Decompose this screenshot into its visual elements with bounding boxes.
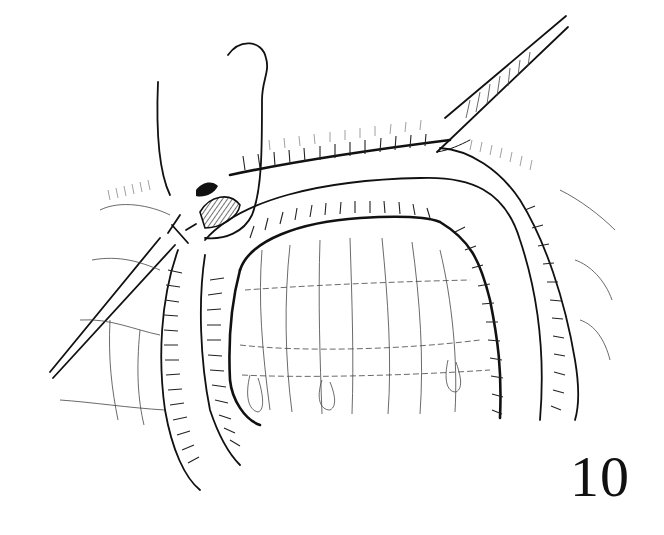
figure-number-label: 10 [570,448,630,506]
bowel-wall-hatching [164,134,565,463]
forceps-lower [50,238,175,378]
mesentery-vessels [240,238,490,414]
outer-mesentery [60,190,615,425]
bowel-upper-edge [205,140,578,420]
surgical-illustration [0,0,664,535]
anastomosis-site [168,183,240,243]
forceps-upper [437,16,568,152]
bowel-inner-loop [229,217,500,425]
